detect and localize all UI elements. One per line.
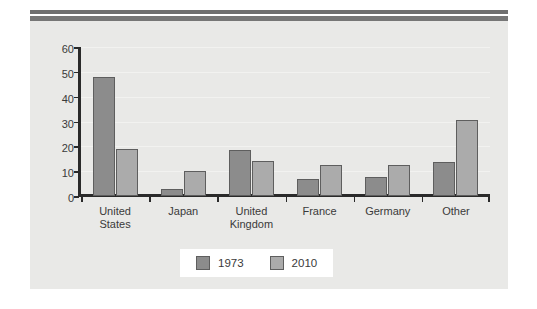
y-tick-label: 30	[62, 118, 74, 130]
y-tick-label: 0	[68, 192, 74, 204]
bar-1973-japan	[161, 189, 183, 196]
legend-swatch-2010	[270, 256, 284, 270]
bar-1973-united-states	[93, 77, 115, 196]
bar-1973-united-kingdom	[229, 150, 251, 196]
legend-swatch-1973	[196, 256, 210, 270]
x-axis-tick-marks	[81, 197, 490, 203]
y-tick-label: 20	[62, 142, 74, 154]
category-label-japan: Japan	[168, 205, 198, 218]
x-tick-mark	[149, 197, 151, 202]
legend-item-2010: 2010	[270, 256, 318, 270]
plot-area: 0102030405060 UnitedStatesJapanUnitedKin…	[30, 21, 508, 289]
legend-label-1973: 1973	[218, 257, 244, 269]
y-tick-label: 60	[62, 43, 74, 55]
x-tick-mark	[81, 197, 83, 202]
category-label-united-kingdom: UnitedKingdom	[230, 205, 273, 231]
x-tick-mark	[488, 197, 490, 202]
y-axis-tick-labels: 0102030405060	[48, 49, 74, 194]
category-label-germany: Germany	[365, 205, 410, 218]
category-label-united-states: UnitedStates	[99, 205, 131, 231]
x-axis-category-labels: UnitedStatesJapanUnitedKingdomFranceGerm…	[81, 205, 490, 237]
category-label-other: Other	[442, 205, 470, 218]
bar-2010-united-states	[116, 149, 138, 196]
bar-2010-france	[320, 165, 342, 196]
category-label-france: France	[302, 205, 336, 218]
bar-2010-japan	[184, 171, 206, 196]
y-tick-label: 10	[62, 167, 74, 179]
x-tick-mark	[354, 197, 356, 202]
x-tick-mark	[422, 197, 424, 202]
x-tick-mark	[286, 197, 288, 202]
y-tick-label: 40	[62, 93, 74, 105]
bar-series-group	[81, 47, 490, 196]
legend-label-2010: 2010	[292, 257, 318, 269]
y-tick-label: 50	[62, 68, 74, 80]
legend-item-1973: 1973	[196, 256, 244, 270]
bar-2010-germany	[388, 165, 410, 196]
chart-legend: 1973 2010	[180, 249, 333, 277]
bar-1973-other	[433, 162, 455, 196]
figure-container: 0102030405060 UnitedStatesJapanUnitedKin…	[30, 10, 508, 289]
bar-2010-other	[456, 120, 478, 196]
bar-2010-united-kingdom	[252, 161, 274, 196]
bar-1973-france	[297, 179, 319, 196]
x-tick-mark	[217, 197, 219, 202]
bar-1973-germany	[365, 177, 387, 196]
